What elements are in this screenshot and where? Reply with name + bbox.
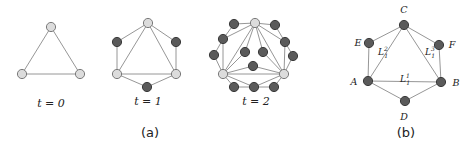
edge-E-A (368, 43, 369, 81)
node-b2 (249, 82, 258, 91)
node-C (399, 20, 408, 29)
panel-b-label: (b) (397, 125, 415, 140)
node-E (364, 38, 373, 47)
graph-t0-edges (22, 27, 80, 74)
node-A (363, 76, 372, 85)
node-ul (112, 37, 121, 46)
graph-t1 (112, 18, 180, 91)
vertex-label-F: F (448, 39, 456, 50)
edge-top-left (22, 27, 51, 74)
node-ir (258, 47, 267, 56)
edge-D-B (405, 82, 441, 101)
edge-label-L1-2: L21 (377, 45, 388, 59)
graph-t1-edges (117, 23, 176, 87)
node-l3 (209, 50, 218, 59)
node-right (75, 69, 84, 78)
node-ic (248, 61, 257, 70)
vertex-label-D: D (399, 111, 408, 122)
edge-label-L1-1: L11 (399, 72, 410, 86)
node-r1 (270, 20, 279, 29)
vertex-label-E: E (354, 37, 362, 48)
edge-A-D (368, 81, 405, 101)
node-top (46, 22, 55, 31)
node-top (250, 18, 259, 27)
graph-t1-nodes (112, 18, 180, 91)
diagram-canvas: CEFABDL21L31L11 t = 0 t = 1 t = 2 (a) (b… (0, 0, 475, 151)
graph-t0 (17, 22, 84, 78)
graph-b-nodes (363, 20, 445, 105)
node-b3 (269, 82, 278, 91)
edge-top-right (51, 27, 80, 74)
edge-label-L1-3: L31 (424, 45, 435, 59)
node-bot (142, 82, 151, 91)
vertex-label-A: A (350, 76, 358, 87)
edge-top-ul (117, 23, 148, 42)
edge-top-left (117, 23, 148, 74)
graph-t2 (209, 18, 297, 91)
graph-b-edges (368, 25, 441, 101)
node-top (143, 18, 152, 27)
edge-top-right (148, 23, 176, 74)
node-ur (171, 37, 180, 46)
node-left (112, 69, 121, 78)
caption-t1: t = 1 (134, 95, 162, 108)
edge-F-B (439, 45, 441, 82)
vertex-label-C: C (400, 4, 408, 15)
edge-C-E (369, 25, 404, 43)
panel-b: CEFABDL21L31L11 (350, 4, 460, 122)
node-left (218, 69, 227, 78)
node-l1 (229, 19, 238, 28)
node-right (171, 69, 180, 78)
node-F (434, 40, 443, 49)
node-r3 (288, 51, 297, 60)
node-l2 (218, 34, 227, 43)
panel-a-label: (a) (141, 125, 159, 140)
caption-t2: t = 2 (242, 95, 270, 108)
node-il (240, 47, 249, 56)
graph-t0-nodes (17, 22, 84, 78)
node-left (17, 69, 26, 78)
node-D (400, 96, 409, 105)
edge-C-F (404, 25, 439, 45)
node-r2 (280, 37, 289, 46)
vertex-label-B: B (452, 77, 460, 88)
panel-a (17, 18, 297, 91)
node-right (279, 69, 288, 78)
node-b1 (229, 82, 238, 91)
caption-t0: t = 0 (37, 97, 65, 110)
node-B (436, 77, 445, 86)
